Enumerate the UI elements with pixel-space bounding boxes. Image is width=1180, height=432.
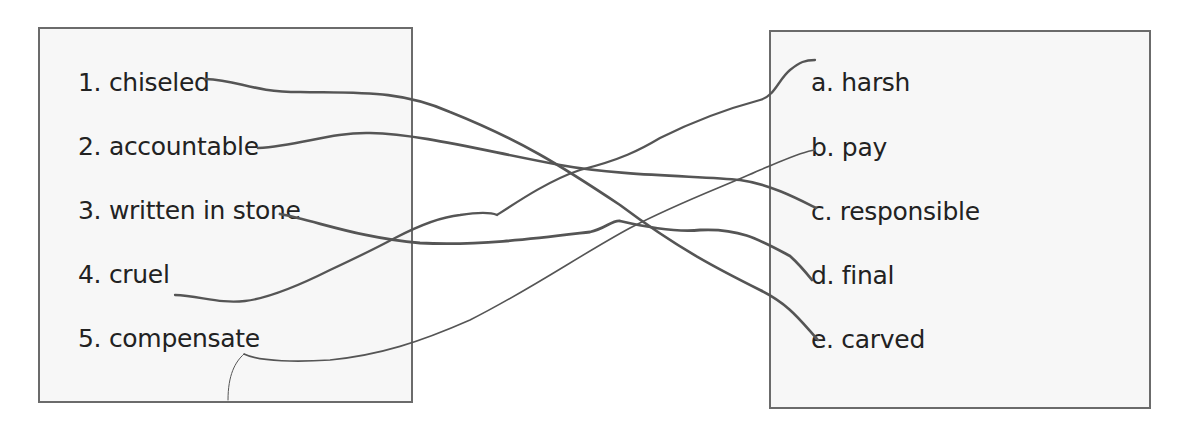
- right-item-e[interactable]: e. carved: [811, 325, 925, 354]
- left-item-2[interactable]: 2. accountable: [78, 132, 259, 161]
- right-item-a[interactable]: a. harsh: [811, 68, 910, 97]
- right-item-d[interactable]: d. final: [811, 261, 894, 290]
- right-item-c[interactable]: c. responsible: [811, 197, 980, 226]
- left-item-5[interactable]: 5. compensate: [78, 324, 260, 353]
- right-item-b[interactable]: b. pay: [811, 133, 887, 162]
- left-item-3[interactable]: 3. written in stone: [78, 196, 301, 225]
- left-item-4[interactable]: 4. cruel: [78, 260, 170, 289]
- left-item-1[interactable]: 1. chiseled: [78, 68, 210, 97]
